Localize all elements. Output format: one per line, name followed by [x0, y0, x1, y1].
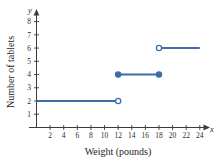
y-tick-label: 4	[27, 70, 31, 79]
x-tick-label: 8	[89, 131, 93, 140]
x-tick-label: 2	[48, 131, 52, 140]
x-tick-label: 20	[169, 131, 177, 140]
y-tick-label: 6	[27, 44, 31, 53]
x-tick-label: 6	[75, 131, 79, 140]
endpoint-closed-right	[156, 72, 161, 77]
x-tick-label: 16	[142, 131, 150, 140]
endpoint-open-left	[156, 45, 161, 50]
endpoint-open-right	[116, 98, 121, 103]
x-axis-title: Weight (pounds)	[85, 146, 152, 158]
axes-group	[29, 9, 210, 130]
y-axis-variable-label: y	[27, 5, 32, 15]
endpoint-closed-left	[116, 72, 121, 77]
x-tick-label: 22	[182, 131, 190, 140]
y-tick-label: 5	[27, 57, 31, 66]
x-axis-arrowhead	[204, 125, 211, 131]
y-axis-arrowhead	[34, 9, 40, 16]
y-tick-label: 2	[27, 97, 31, 106]
chart-canvas: 12345678 24681012141618202224 y x Weight…	[0, 0, 224, 168]
y-tick-label: 7	[27, 31, 31, 40]
x-tick-label: 18	[155, 131, 163, 140]
y-tick-label: 8	[27, 17, 31, 26]
x-tick-label: 24	[196, 131, 204, 140]
x-tick-label: 4	[62, 131, 66, 140]
step-function-chart: 12345678 24681012141618202224 y x Weight…	[0, 0, 224, 168]
x-axis-variable-label: x	[209, 124, 214, 134]
y-tick-label: 1	[27, 110, 31, 119]
step-segments-group	[37, 45, 200, 103]
x-tick-label: 14	[128, 131, 136, 140]
x-tick-label: 12	[114, 131, 122, 140]
y-axis-ticks: 12345678	[27, 17, 39, 119]
x-tick-label: 10	[101, 131, 109, 140]
y-tick-label: 3	[27, 83, 31, 92]
y-axis-title: Number of tablets	[5, 36, 16, 108]
